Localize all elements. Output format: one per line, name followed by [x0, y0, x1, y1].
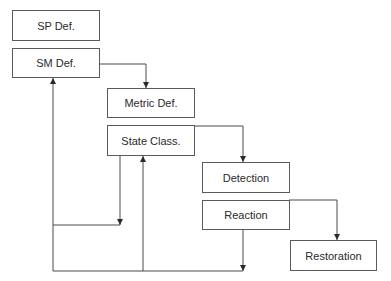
arrow-up-icon: [140, 156, 146, 162]
node-label: State Class.: [121, 135, 180, 147]
node-label: SM Def.: [36, 57, 76, 69]
node-sm-def: SM Def.: [12, 48, 100, 78]
node-label: Restoration: [305, 250, 361, 262]
node-restoration: Restoration: [290, 240, 377, 271]
node-reaction: Reaction: [202, 200, 290, 230]
node-label: Metric Def.: [124, 97, 177, 109]
node-detection: Detection: [202, 162, 290, 193]
node-state-class: State Class.: [107, 125, 195, 156]
connector-lines: [0, 0, 391, 281]
node-label: Reaction: [224, 209, 267, 221]
arrow-up-icon: [50, 78, 56, 84]
node-label: SP Def.: [37, 20, 75, 32]
node-label: Detection: [223, 172, 269, 184]
flow-diagram: SP Def. SM Def. Metric Def. State Class.…: [0, 0, 391, 281]
arrow-down-icon: [240, 265, 246, 271]
node-sp-def: SP Def.: [12, 10, 100, 41]
node-metric-def: Metric Def.: [107, 88, 195, 118]
arrow-down-icon: [117, 219, 123, 225]
